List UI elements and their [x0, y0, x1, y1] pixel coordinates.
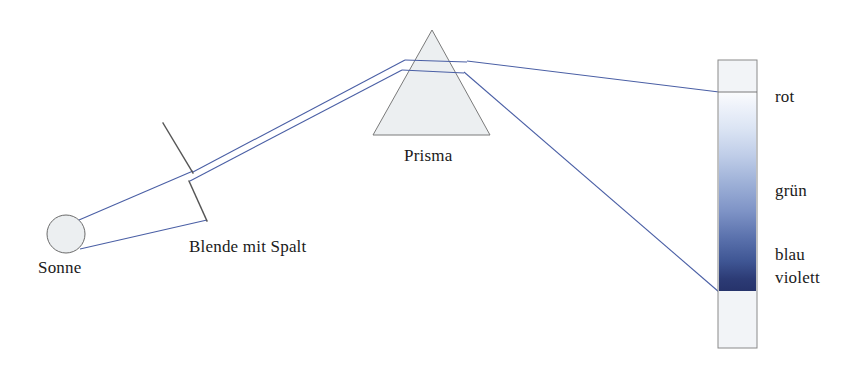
spectrum-screen-group — [718, 60, 757, 348]
label-blau: blau — [775, 245, 805, 265]
label-violett: violett — [775, 268, 820, 288]
sun-disc — [47, 215, 85, 253]
label-blende-mit-spalt: Blende mit Spalt — [189, 237, 306, 257]
label-rot: rot — [775, 87, 794, 107]
label-prisma: Prisma — [404, 146, 452, 166]
label-gruen: grün — [775, 181, 807, 201]
spectrum-band — [719, 92, 756, 291]
sun-group — [47, 215, 85, 253]
label-sonne: Sonne — [38, 258, 82, 278]
prism-dispersion-diagram — [0, 0, 855, 368]
